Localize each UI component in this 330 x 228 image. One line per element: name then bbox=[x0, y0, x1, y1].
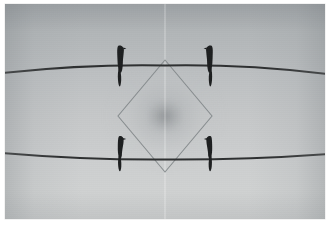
screenshot-root bbox=[0, 0, 330, 228]
film-grain bbox=[5, 4, 325, 219]
photograph bbox=[5, 4, 325, 219]
photo-frame bbox=[5, 4, 325, 219]
